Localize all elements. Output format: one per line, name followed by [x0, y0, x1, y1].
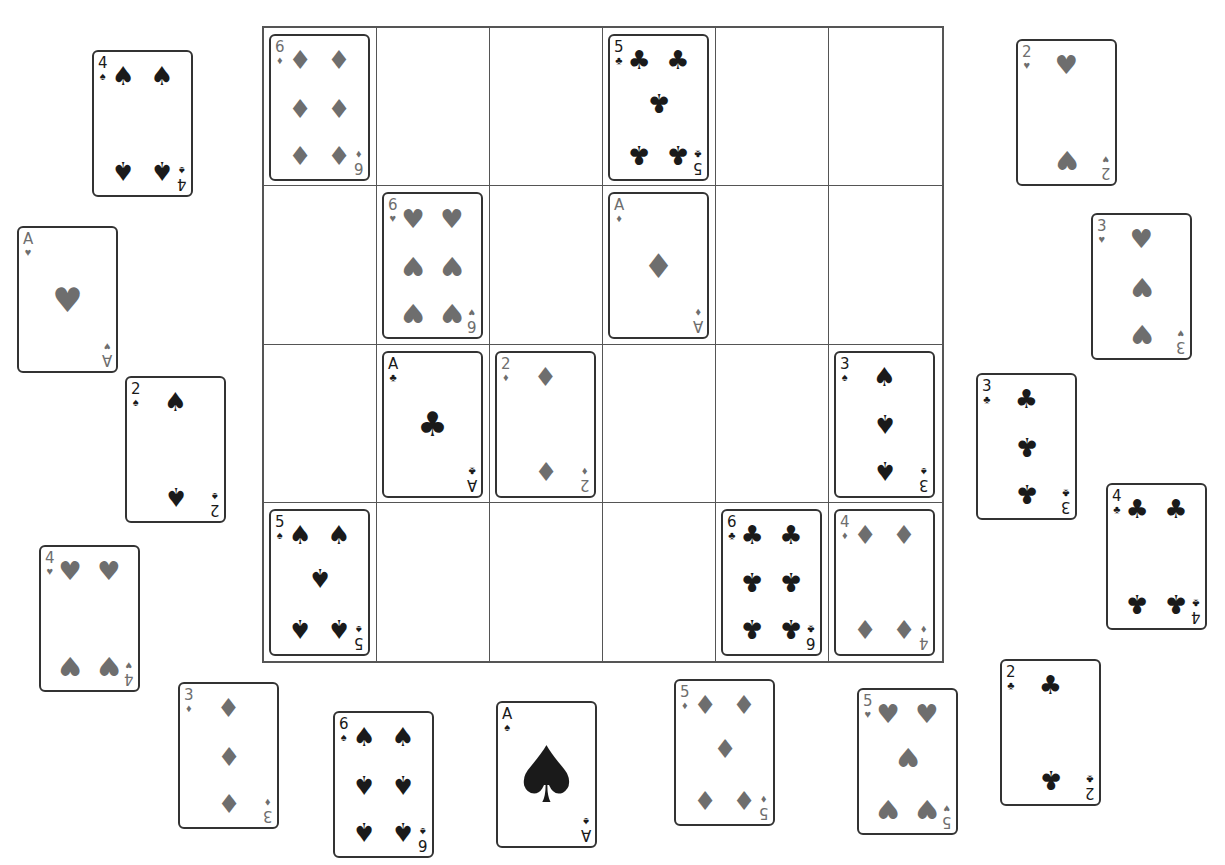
club-icon: ♣ — [627, 47, 650, 73]
card-five-of-spades[interactable]: 5♠5♠♠♠♠♠♠ — [269, 509, 370, 656]
club-icon: ♣ — [666, 47, 689, 73]
card-three-of-spades[interactable]: 3♠3♠♠♠♠ — [834, 351, 935, 498]
card-ace-of-clubs[interactable]: A♣A♣♣ — [382, 351, 483, 498]
card-corner-index: 2♣ — [1006, 665, 1016, 691]
grid-cell-r1-c3[interactable]: A♦A♦♦ — [603, 186, 716, 344]
spade-icon: ♠ — [873, 458, 896, 484]
card-rank-label: 3 — [840, 357, 850, 372]
club-icon: ♣ — [615, 55, 622, 66]
card-corner-index: 4♠ — [177, 165, 187, 191]
spade-icon: ♠ — [842, 372, 848, 383]
card-five-of-diamonds[interactable]: 5♦5♦♦♦♦♦♦ — [674, 679, 775, 826]
grid-cell-r0-c5[interactable] — [829, 28, 942, 186]
card-rank-label: 3 — [982, 379, 992, 394]
grid-cell-r0-c2[interactable] — [490, 28, 603, 186]
heart-icon: ♥ — [1103, 154, 1110, 165]
card-rank-label: 6 — [806, 635, 816, 650]
card-ace-of-hearts[interactable]: A♥A♥♥ — [17, 226, 118, 373]
club-icon: ♣ — [779, 522, 802, 548]
card-rank-label: 3 — [1061, 499, 1071, 514]
grid-cell-r0-c1[interactable] — [377, 28, 490, 186]
card-four-of-spades[interactable]: 4♠4♠♠♠♠♠ — [92, 50, 193, 197]
club-icon: ♣ — [779, 569, 802, 595]
card-six-of-hearts[interactable]: 6♥6♥♥♥♥♥♥♥ — [382, 192, 483, 339]
card-six-of-spades[interactable]: 6♠6♠♠♠♠♠♠♠ — [333, 711, 434, 858]
club-icon: ♣ — [1164, 496, 1187, 522]
card-two-of-hearts[interactable]: 2♥2♥♥♥ — [1016, 39, 1117, 186]
card-rank-label: 2 — [1022, 45, 1032, 60]
heart-icon: ♥ — [126, 660, 133, 671]
card-corner-index: 5♠ — [354, 624, 364, 650]
grid-cell-r3-c0[interactable]: 5♠5♠♠♠♠♠♠ — [264, 503, 377, 661]
card-rank-label: A — [693, 318, 703, 333]
grid-cell-r0-c0[interactable]: 6♦6♦♦♦♦♦♦♦ — [264, 28, 377, 186]
grid-cell-r2-c4[interactable] — [716, 345, 829, 503]
grid-cell-r2-c1[interactable]: A♣A♣♣ — [377, 345, 490, 503]
card-corner-index: 2♦ — [580, 466, 590, 492]
club-icon: ♣ — [740, 569, 763, 595]
card-six-of-clubs[interactable]: 6♣6♣♣♣♣♣♣♣ — [721, 509, 822, 656]
card-corner-index: 2♠ — [131, 382, 141, 408]
grid-cell-r1-c1[interactable]: 6♥6♥♥♥♥♥♥♥ — [377, 186, 490, 344]
grid-cell-r3-c5[interactable]: 4♦4♦♦♦♦♦ — [829, 503, 942, 661]
grid-cell-r1-c5[interactable] — [829, 186, 942, 344]
grid-cell-r0-c3[interactable]: 5♣5♣♣♣♣♣♣ — [603, 28, 716, 186]
card-corner-index: 2♦ — [501, 357, 511, 383]
grid-cell-r3-c1[interactable] — [377, 503, 490, 661]
grid-cell-r1-c4[interactable] — [716, 186, 829, 344]
diamond-icon: ♦ — [217, 790, 240, 816]
club-icon: ♣ — [740, 616, 763, 642]
card-rank-label: 4 — [1112, 489, 1122, 504]
heart-icon: ♥ — [440, 253, 463, 279]
card-four-of-hearts[interactable]: 4♥4♥♥♥♥♥ — [39, 545, 140, 692]
diamond-icon: ♦ — [186, 703, 192, 714]
card-rank-label: A — [23, 232, 33, 247]
card-corner-index: 6♥ — [467, 307, 477, 333]
spade-icon: ♠ — [164, 484, 187, 510]
grid-cell-r2-c2[interactable]: 2♦2♦♦♦ — [490, 345, 603, 503]
club-icon: ♣ — [627, 142, 650, 168]
card-two-of-spades[interactable]: 2♠2♠♠♠ — [125, 376, 226, 523]
club-icon: ♣ — [1087, 774, 1094, 785]
card-ace-of-diamonds[interactable]: A♦A♦♦ — [608, 192, 709, 339]
grid-cell-r2-c3[interactable] — [603, 345, 716, 503]
card-rank-label: 2 — [501, 357, 511, 372]
card-two-of-clubs[interactable]: 2♣2♣♣♣ — [1000, 659, 1101, 806]
diamond-icon: ♦ — [695, 307, 701, 318]
club-icon: ♣ — [647, 90, 670, 116]
grid-cell-r3-c3[interactable] — [603, 503, 716, 661]
spade-icon: ♠ — [921, 466, 927, 477]
spade-icon: ♠ — [150, 63, 173, 89]
grid-cell-r1-c2[interactable] — [490, 186, 603, 344]
card-ace-of-spades[interactable]: A♠A♠♠ — [496, 701, 597, 848]
card-rank-label: 6 — [275, 40, 285, 55]
grid-cell-r3-c4[interactable]: 6♣6♣♣♣♣♣♣♣ — [716, 503, 829, 661]
grid-cell-r2-c5[interactable]: 3♠3♠♠♠♠ — [829, 345, 942, 503]
grid-cell-r0-c4[interactable] — [716, 28, 829, 186]
heart-icon: ♥ — [876, 701, 899, 727]
club-icon: ♣ — [1039, 767, 1062, 793]
grid-cell-r2-c0[interactable] — [264, 345, 377, 503]
card-corner-index: 4♣ — [1112, 489, 1122, 515]
card-corner-index: 5♥ — [863, 694, 873, 720]
card-rank-label: A — [581, 827, 591, 842]
heart-icon: ♥ — [1055, 52, 1078, 78]
spade-icon: ♠ — [504, 722, 510, 733]
card-five-of-hearts[interactable]: 5♥5♥♥♥♥♥♥ — [857, 688, 958, 835]
grid-cell-r3-c2[interactable] — [490, 503, 603, 661]
card-five-of-clubs[interactable]: 5♣5♣♣♣♣♣♣ — [608, 34, 709, 181]
diamond-icon: ♦ — [616, 213, 622, 224]
card-three-of-diamonds[interactable]: 3♦3♦♦♦♦ — [178, 682, 279, 829]
diamond-icon: ♦ — [732, 787, 755, 813]
card-three-of-clubs[interactable]: 3♣3♣♣♣♣ — [976, 373, 1077, 520]
spade-icon: ♠ — [583, 816, 589, 827]
card-two-of-diamonds[interactable]: 2♦2♦♦♦ — [495, 351, 596, 498]
card-three-of-hearts[interactable]: 3♥3♥♥♥♥ — [1091, 213, 1192, 360]
club-icon: ♣ — [695, 149, 702, 160]
diamond-icon: ♦ — [892, 522, 915, 548]
club-icon: ♣ — [417, 407, 447, 441]
card-four-of-clubs[interactable]: 4♣4♣♣♣♣♣ — [1106, 483, 1207, 630]
grid-cell-r1-c0[interactable] — [264, 186, 377, 344]
card-four-of-diamonds[interactable]: 4♦4♦♦♦♦♦ — [834, 509, 935, 656]
card-six-of-diamonds[interactable]: 6♦6♦♦♦♦♦♦♦ — [269, 34, 370, 181]
